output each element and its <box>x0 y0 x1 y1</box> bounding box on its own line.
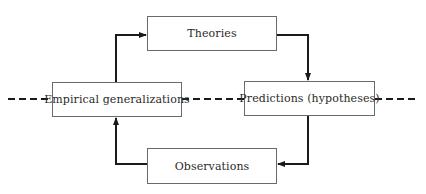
node-empirical-generalizations: Empirical generalizations <box>52 82 182 117</box>
arrow-theories-to-predictions <box>277 35 308 80</box>
node-label: Theories <box>187 27 236 40</box>
node-label: Observations <box>175 160 250 173</box>
node-label: Predictions (hypotheses) <box>239 92 379 105</box>
node-label: Empirical generalizations <box>44 93 190 106</box>
arrow-empirical-to-theories <box>116 35 146 82</box>
node-predictions: Predictions (hypotheses) <box>244 81 375 116</box>
node-theories: Theories <box>147 16 277 51</box>
arrow-predictions-to-observations <box>278 116 308 164</box>
node-observations: Observations <box>147 148 277 184</box>
arrow-observations-to-empirical <box>116 118 147 164</box>
